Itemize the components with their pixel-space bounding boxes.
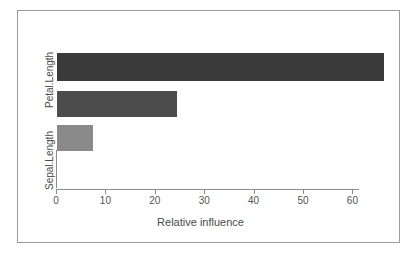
y-axis-label-petal-length: Petal.Length bbox=[44, 52, 56, 108]
x-tick-label-50: 50 bbox=[283, 195, 323, 207]
x-tick-label-0: 0 bbox=[36, 195, 76, 207]
x-tick-20 bbox=[155, 189, 156, 194]
x-tick-10 bbox=[105, 189, 106, 194]
y-axis-line bbox=[56, 150, 57, 188]
x-tick-0 bbox=[56, 189, 57, 194]
plot-area bbox=[56, 52, 386, 186]
y-axis-label-sepal-length: Sepal.Length bbox=[44, 131, 56, 190]
bar-sepal-length bbox=[56, 124, 94, 152]
x-axis-line bbox=[56, 189, 359, 190]
x-tick-label-60: 60 bbox=[332, 195, 372, 207]
bar-petal-length bbox=[56, 52, 385, 82]
bar-sepal-width bbox=[56, 90, 178, 118]
x-axis-title: Relative influence bbox=[0, 216, 417, 228]
x-tick-label-20: 20 bbox=[135, 195, 175, 207]
x-tick-50 bbox=[303, 189, 304, 194]
x-tick-40 bbox=[254, 189, 255, 194]
x-tick-label-40: 40 bbox=[234, 195, 274, 207]
x-tick-30 bbox=[204, 189, 205, 194]
x-tick-label-30: 30 bbox=[184, 195, 224, 207]
x-tick-label-10: 10 bbox=[85, 195, 125, 207]
x-axis-title-text: Relative influence bbox=[157, 216, 244, 228]
chart-figure: Petal.Length Sepal.Length 0102030405060 … bbox=[0, 0, 417, 256]
x-tick-60 bbox=[352, 189, 353, 194]
